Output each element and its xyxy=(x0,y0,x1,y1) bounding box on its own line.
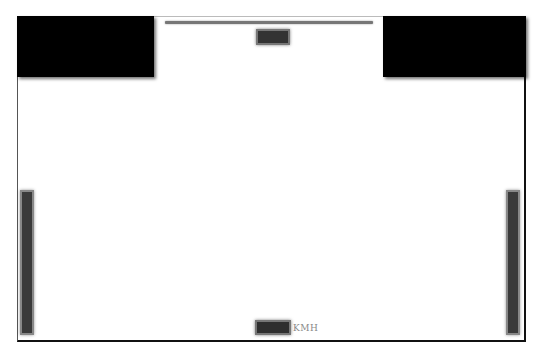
top-progress-bar xyxy=(165,21,373,24)
top-right-panel xyxy=(383,16,526,77)
right-gauge-bar xyxy=(506,190,520,335)
speed-value-box xyxy=(255,320,291,335)
speed-unit-label: KMH xyxy=(293,323,318,333)
top-indicator xyxy=(256,29,290,45)
left-gauge-bar xyxy=(20,190,34,335)
top-left-panel xyxy=(17,16,154,77)
